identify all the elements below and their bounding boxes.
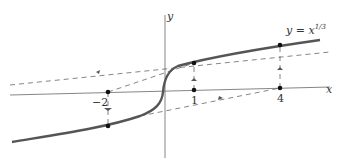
y-axis-label: y xyxy=(167,10,173,23)
tick-label-1: 1 xyxy=(191,94,198,107)
cube-root-diagram: y x −2 1 4 y = x1/3 xyxy=(0,0,345,168)
dashed-mapping-lines xyxy=(10,45,330,126)
function-label: y = x1/3 xyxy=(286,23,326,37)
x-axis-label: x xyxy=(326,83,332,96)
tick-label-minus-2: −2 xyxy=(92,96,108,109)
tick-label-4: 4 xyxy=(277,92,284,105)
